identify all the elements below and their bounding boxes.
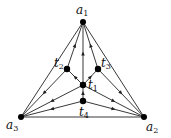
label-t1: t1 bbox=[88, 78, 98, 93]
arrow-icon bbox=[73, 44, 76, 48]
label-a1: a1 bbox=[76, 3, 88, 18]
arrow-icon bbox=[81, 91, 85, 95]
label-a3: a3 bbox=[6, 118, 18, 133]
arrow-icon bbox=[81, 52, 85, 56]
edge-a1-a3 bbox=[21, 22, 83, 117]
node-t1 bbox=[80, 82, 86, 88]
node-a1 bbox=[80, 19, 86, 25]
label-t4: t4 bbox=[79, 105, 89, 120]
arrow-icon bbox=[89, 44, 92, 48]
edge-a1-a2 bbox=[83, 22, 144, 117]
graph-canvas: a1a2a3t1t2t3t4 bbox=[0, 0, 171, 138]
node-a3 bbox=[18, 114, 24, 120]
node-t2 bbox=[64, 66, 70, 72]
node-t4 bbox=[80, 98, 86, 104]
label-a2: a2 bbox=[146, 120, 158, 135]
